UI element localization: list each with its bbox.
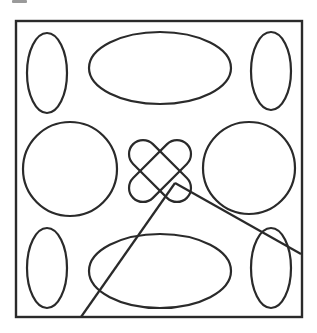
cross-capsule-2 [123, 134, 197, 208]
cross-capsule-1 [123, 134, 197, 208]
angle-ray-2 [175, 183, 301, 254]
bottom-middle-ellipse [89, 234, 231, 308]
top-middle-ellipse [89, 32, 231, 104]
bottom-right-ellipse [251, 228, 291, 308]
bottom-left-ellipse [27, 228, 67, 308]
top-left-ellipse [27, 33, 67, 113]
geometric-figure [0, 0, 317, 333]
angle-ray-1 [81, 183, 175, 317]
ellipses-group [23, 32, 295, 308]
left-circle [23, 122, 117, 216]
center-cross [123, 134, 197, 208]
square-frame [16, 21, 302, 317]
top-right-ellipse [251, 32, 291, 110]
angle-lines [81, 183, 301, 317]
right-circle [203, 122, 295, 214]
